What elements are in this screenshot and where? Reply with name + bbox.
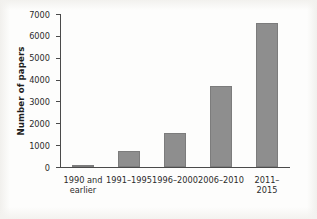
bar xyxy=(256,23,278,167)
x-axis-tick-label: 2011–2015 xyxy=(255,175,280,196)
y-axis-tick: 1000 xyxy=(56,145,60,146)
plot-area: 01000200030004000500060007000 1990 and e… xyxy=(60,14,290,168)
y-axis-tick: 2000 xyxy=(56,123,60,124)
bar xyxy=(164,133,186,167)
x-axis-tick-label: 1990 and earlier xyxy=(64,175,103,196)
y-axis-tick-label: 2000 xyxy=(29,120,50,128)
y-axis-tick-label: 7000 xyxy=(29,10,50,18)
y-axis-tick: 7000 xyxy=(56,14,60,15)
y-axis-tick: 3000 xyxy=(56,101,60,102)
y-axis-spine xyxy=(60,14,61,168)
y-axis-tick-label: 6000 xyxy=(29,32,50,40)
y-axis-title: Number of papers xyxy=(14,14,28,168)
x-axis-spine xyxy=(60,167,290,168)
bar xyxy=(72,165,94,167)
bar-chart-figure: Number of papers 01000200030004000500060… xyxy=(0,0,317,219)
x-axis-tick-label: 1991–1995 xyxy=(106,175,152,185)
y-axis-tick: 5000 xyxy=(56,58,60,59)
x-axis-tick-label: 1996–2000 xyxy=(152,175,198,185)
y-axis-tick-label: 0 xyxy=(45,163,50,171)
y-axis-tick-label: 5000 xyxy=(29,54,50,62)
bar xyxy=(210,86,232,167)
y-axis-tick-label: 4000 xyxy=(29,76,50,84)
y-axis-tick: 4000 xyxy=(56,80,60,81)
x-axis-tick-label: 2006–2010 xyxy=(198,175,244,185)
y-axis-tick-label: 1000 xyxy=(29,142,50,150)
y-axis-tick: 6000 xyxy=(56,36,60,37)
y-axis-tick-label: 3000 xyxy=(29,98,50,106)
bar xyxy=(118,151,140,167)
y-axis-tick: 0 xyxy=(56,167,60,168)
